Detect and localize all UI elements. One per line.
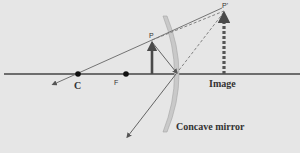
center-of-curvature-point [75,71,81,77]
label-f: F [114,79,118,86]
label-c: C [74,80,81,91]
ray-through-center [54,40,152,84]
label-image: Image [209,78,236,89]
label-p-prime: P' [222,2,228,9]
label-p: P [149,32,154,39]
label-concave-mirror: Concave mirror [176,121,245,132]
ray-diagram: C F P P' Image Concave mirror [0,0,300,153]
ray-to-mirror-top [152,8,222,40]
focal-point [123,71,129,77]
virtual-ray-extension-2 [176,12,224,74]
